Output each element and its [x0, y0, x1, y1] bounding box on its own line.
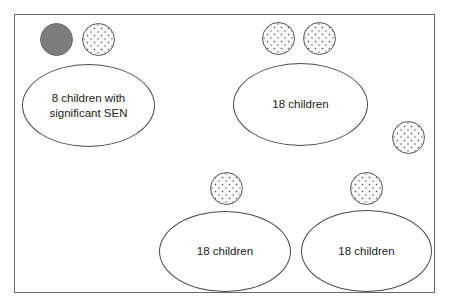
dotted-circle-adult — [82, 23, 115, 56]
group-label: 18 children — [197, 244, 253, 259]
classroom-layout-diagram: 8 children with significant SEN 18 child… — [0, 0, 450, 308]
dotted-circle-adult — [350, 172, 383, 205]
group-ellipse-sen: 8 children with significant SEN — [22, 64, 155, 147]
dotted-circle-adult — [392, 121, 425, 154]
dotted-circle-adult — [210, 172, 243, 205]
group-label: 18 children — [272, 97, 328, 112]
group-label: 18 children — [338, 244, 394, 259]
group-ellipse-bottom-right: 18 children — [301, 210, 432, 292]
filled-circle-adult — [40, 23, 73, 56]
group-label: 8 children with significant SEN — [50, 91, 128, 121]
group-ellipse-top-right: 18 children — [233, 63, 368, 146]
group-ellipse-bottom-middle: 18 children — [159, 211, 291, 292]
dotted-circle-adult — [262, 22, 295, 55]
dotted-circle-adult — [303, 22, 336, 55]
